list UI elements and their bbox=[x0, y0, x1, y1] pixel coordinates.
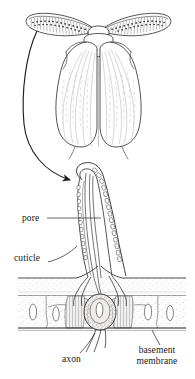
epidermal-nucleus bbox=[167, 305, 174, 320]
figure-caption-fragment bbox=[0, 369, 195, 379]
receptor-cell-body bbox=[84, 294, 116, 330]
label-cuticle: cuticle bbox=[14, 253, 40, 264]
epidermal-nucleus bbox=[144, 304, 151, 320]
label-axon: axon bbox=[62, 354, 81, 365]
epidermal-nucleus bbox=[53, 307, 59, 321]
figure-illustration bbox=[0, 0, 195, 379]
label-basement-line1: basement bbox=[139, 345, 176, 355]
label-basement-membrane: basement membrane bbox=[128, 345, 186, 366]
neuron-nucleus bbox=[96, 302, 103, 317]
label-basement-line2: membrane bbox=[137, 356, 178, 366]
label-pore: pore bbox=[22, 213, 39, 224]
epidermal-nucleus bbox=[29, 304, 36, 320]
figure-container: pore cuticle axon basement membrane bbox=[0, 0, 195, 379]
